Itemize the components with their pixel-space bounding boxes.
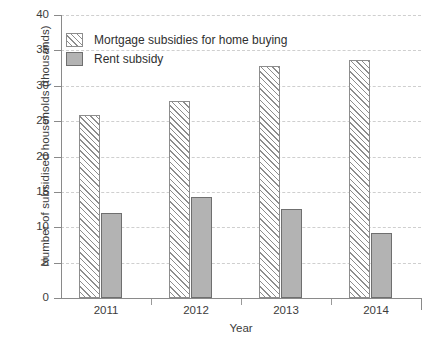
y-axis-tick — [54, 50, 61, 51]
bar-rent-2014 — [371, 233, 392, 298]
bar-rent-2012 — [191, 197, 212, 298]
y-axis-tick-label: 10 — [9, 220, 49, 232]
y-axis-line — [61, 15, 62, 299]
x-axis-separator-tick — [151, 299, 152, 305]
x-axis-tick-label: 2012 — [151, 304, 241, 316]
legend-label-rent: Rent subsidy — [94, 52, 163, 66]
y-axis-tick-label: 40 — [9, 8, 49, 20]
x-axis-tick-label: 2013 — [241, 304, 331, 316]
y-axis-tick-label: 30 — [9, 79, 49, 91]
bar-mortgage-2012 — [169, 101, 190, 298]
x-axis-title: Year — [60, 322, 422, 334]
legend-item-rent: Rent subsidy — [66, 49, 287, 68]
plot-right-frame — [421, 298, 422, 310]
x-axis-separator-tick — [241, 299, 242, 305]
x-axis-separator-tick — [331, 299, 332, 305]
y-axis-tick-label: 20 — [9, 150, 49, 162]
y-axis-tick — [54, 192, 61, 193]
y-axis-tick-label: 0 — [9, 291, 49, 303]
legend-label-mortgage: Mortgage subsidies for home buying — [94, 33, 287, 47]
y-axis-tick-label: 25 — [9, 114, 49, 126]
grid-line — [61, 15, 421, 16]
y-axis-tick — [54, 86, 61, 87]
bar-mortgage-2013 — [259, 66, 280, 298]
legend-swatch-hatch-icon — [66, 33, 83, 47]
bar-mortgage-2011 — [79, 115, 100, 298]
y-axis-tick — [54, 15, 61, 16]
legend-item-mortgage: Mortgage subsidies for home buying — [66, 30, 287, 49]
y-axis-tick-label: 15 — [9, 185, 49, 197]
y-axis-tick — [54, 263, 61, 264]
y-axis-tick — [54, 121, 61, 122]
bar-rent-2011 — [101, 213, 122, 298]
bar-rent-2013 — [281, 209, 302, 298]
x-axis-tick-label: 2011 — [61, 304, 151, 316]
x-axis-tick-label: 2014 — [331, 304, 421, 316]
y-axis-tick — [54, 227, 61, 228]
bar-mortgage-2014 — [349, 60, 370, 298]
y-axis-tick — [54, 298, 61, 299]
y-axis-tick-label: 35 — [9, 43, 49, 55]
chart-legend: Mortgage subsidies for home buying Rent … — [66, 30, 287, 68]
bar-chart: Number of subsidised households (thousan… — [0, 0, 435, 343]
y-axis-tick — [54, 157, 61, 158]
legend-swatch-solid-icon — [66, 52, 83, 66]
y-axis-tick-label: 5 — [9, 256, 49, 268]
